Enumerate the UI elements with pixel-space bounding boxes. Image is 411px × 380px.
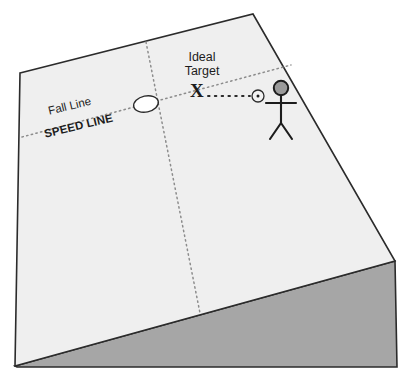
slope-diagram: Ideal Target Fall Line SPEED LINE X [0,0,411,380]
ideal-target-label: Ideal Target [166,50,238,79]
target-circle-marker [252,90,264,102]
stick-figure-head [274,81,288,95]
ideal-target-x-marker: X [190,80,204,102]
